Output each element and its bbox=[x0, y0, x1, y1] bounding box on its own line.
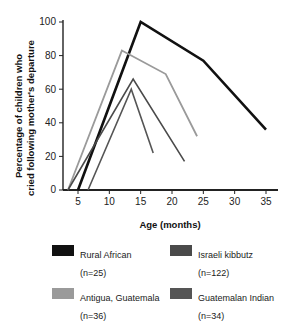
line-chart-plot: Percentage of children who cried followi… bbox=[0, 0, 292, 240]
chart-legend: Rural African (n=25) Israeli kibbutz (n=… bbox=[52, 244, 292, 312]
x-axis-title: Age (months) bbox=[139, 219, 200, 230]
x-tick-label: 30 bbox=[229, 196, 241, 207]
legend-item-israeli-kibbutz: Israeli kibbutz (n=122) bbox=[170, 244, 298, 280]
x-tick-label: 35 bbox=[260, 196, 272, 207]
y-tick-label: 100 bbox=[39, 16, 56, 27]
legend-item-guatemalan-indian: Guatemalan Indian (n=34) bbox=[170, 287, 298, 323]
legend-swatch-antigua-guatemala bbox=[52, 288, 74, 299]
y-axis-ticks: 020406080100 bbox=[39, 16, 63, 195]
legend-swatch-guatemalan-indian bbox=[170, 288, 192, 299]
legend-item-antigua-guatemala: Antigua, Guatemala (n=36) bbox=[52, 287, 164, 323]
y-tick-label: 40 bbox=[45, 117, 57, 128]
x-tick-label: 25 bbox=[198, 196, 210, 207]
legend-n-guatemalan-indian: (n=34) bbox=[198, 311, 224, 321]
y-tick-label: 60 bbox=[45, 84, 57, 95]
legend-n-israeli-kibbutz: (n=122) bbox=[198, 268, 229, 278]
series-lines bbox=[68, 22, 266, 190]
y-tick-label: 20 bbox=[45, 151, 57, 162]
y-axis-title: Percentage of children who cried followi… bbox=[13, 40, 36, 196]
series-line-rural-african bbox=[78, 22, 266, 190]
y-axis-title-line2: cried following mother's departure bbox=[25, 40, 36, 196]
x-tick-label: 10 bbox=[104, 196, 116, 207]
legend-item-rural-african: Rural African (n=25) bbox=[52, 244, 164, 280]
y-tick-label: 80 bbox=[45, 50, 57, 61]
x-tick-label: 5 bbox=[75, 196, 81, 207]
legend-label-guatemalan-indian: Guatemalan Indian bbox=[198, 293, 274, 303]
legend-swatch-rural-african bbox=[52, 245, 74, 256]
x-axis-ticks: 5101520253035 bbox=[75, 190, 272, 207]
y-tick-label: 0 bbox=[50, 184, 56, 195]
legend-n-rural-african: (n=25) bbox=[80, 268, 106, 278]
legend-label-antigua-guatemala: Antigua, Guatemala bbox=[80, 293, 160, 303]
series-line-antigua-guatemala bbox=[68, 51, 197, 190]
x-tick-label: 15 bbox=[135, 196, 147, 207]
legend-label-rural-african: Rural African bbox=[80, 250, 132, 260]
legend-n-antigua-guatemala: (n=36) bbox=[80, 311, 106, 321]
y-axis-title-line1: Percentage of children who bbox=[13, 54, 24, 178]
legend-swatch-israeli-kibbutz bbox=[170, 245, 192, 256]
legend-label-israeli-kibbutz: Israeli kibbutz bbox=[198, 250, 253, 260]
x-tick-label: 20 bbox=[166, 196, 178, 207]
